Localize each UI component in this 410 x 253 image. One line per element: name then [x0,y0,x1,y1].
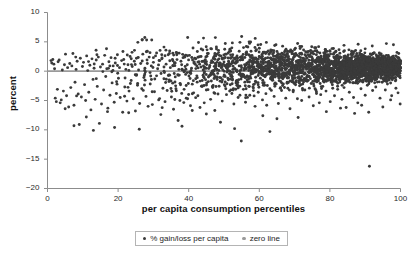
data-point [331,87,334,90]
data-point [347,78,350,81]
data-point [298,45,301,48]
data-point [392,58,395,61]
data-point [174,62,177,65]
data-point [80,96,83,99]
data-point [69,86,72,89]
data-point [81,65,84,68]
data-point [217,93,220,96]
data-point [281,45,284,48]
data-point [103,54,106,57]
data-point [104,75,107,78]
data-point [87,60,90,63]
data-point [205,63,208,66]
data-point [94,98,97,101]
data-point [252,69,255,72]
data-point [228,69,231,72]
data-point [115,80,118,83]
data-point [127,111,130,114]
data-point [212,57,215,60]
data-point [364,47,367,50]
data-point [300,99,303,102]
data-point [320,74,323,77]
data-point [164,49,167,52]
data-point [194,96,197,99]
data-point [265,41,268,44]
data-point [252,89,255,92]
data-point [261,98,264,101]
data-point [173,98,176,101]
data-point [250,50,253,53]
data-point [96,85,99,88]
data-point [305,78,308,81]
y-axis-tick-label: 5 [16,36,40,45]
data-point [316,66,319,69]
data-point [151,103,154,106]
data-point [58,59,61,62]
data-point [374,86,377,89]
data-point [317,45,320,48]
data-point [267,69,270,72]
data-point [377,66,380,69]
data-point [186,36,189,39]
data-point [315,80,318,83]
data-point [237,96,240,99]
data-point [229,53,232,56]
data-point [373,51,376,54]
data-point [260,56,263,59]
data-point [292,65,295,68]
data-point [111,81,114,84]
data-point [64,107,67,110]
data-point [392,43,395,46]
data-point [308,55,311,58]
data-point [254,80,257,83]
data-point [70,64,73,67]
data-point [346,72,349,75]
data-point [137,56,140,59]
data-point [373,67,376,70]
data-point [381,72,384,75]
data-point [364,94,367,97]
y-axis-tick-label: −15 [16,154,40,163]
data-point [254,76,257,79]
data-point [205,82,208,85]
data-point [213,52,216,55]
data-point [245,53,248,56]
data-point [205,73,208,76]
data-point [105,47,108,50]
data-point [209,47,212,50]
data-point [254,37,257,40]
data-point [177,119,180,122]
data-point [189,77,192,80]
data-point [131,51,134,54]
data-point [100,103,103,106]
data-point [238,94,241,97]
data-point [278,58,281,61]
data-point [308,96,311,99]
data-point [371,44,374,47]
data-point [205,113,208,116]
data-point [325,73,328,76]
data-point [353,112,356,115]
data-point [362,58,365,61]
data-point [312,52,315,55]
data-point [151,90,154,93]
data-point [356,101,359,104]
data-point [375,72,378,75]
data-point [194,67,197,70]
data-point [149,75,152,78]
data-point [180,92,183,95]
data-point [393,70,396,73]
data-point [238,73,241,76]
data-point [54,97,57,100]
data-point [220,81,223,84]
data-point [259,43,262,46]
data-point [229,50,232,53]
legend-label-zero-line: zero line [250,234,280,243]
data-point [321,60,324,63]
data-point [174,81,177,84]
data-point [354,49,357,52]
data-point [299,83,302,86]
data-point [205,67,208,70]
data-point [284,75,287,78]
data-point [398,70,401,73]
